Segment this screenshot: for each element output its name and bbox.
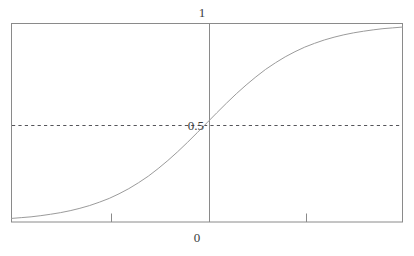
logistic-curve (12, 27, 403, 218)
label-y-half: 0.5 (188, 118, 204, 133)
label-x-zero: 0 (194, 230, 201, 245)
chart-figure: 1 0.5 0 (0, 0, 414, 256)
label-y-top: 1 (199, 5, 206, 20)
sigmoid-plot-svg: 1 0.5 0 (0, 0, 414, 256)
